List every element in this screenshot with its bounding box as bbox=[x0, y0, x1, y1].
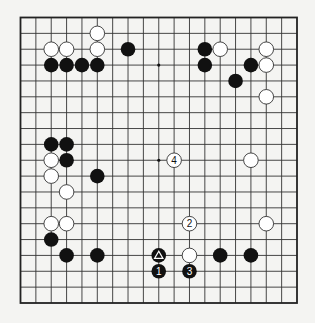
black-stone bbox=[121, 42, 136, 57]
white-stone bbox=[44, 169, 59, 184]
white-stone bbox=[182, 248, 197, 263]
black-stone bbox=[59, 58, 74, 73]
go-board: 1234 bbox=[0, 0, 315, 323]
white-stone bbox=[244, 153, 259, 168]
black-stone bbox=[90, 169, 105, 184]
move-4: 4 bbox=[167, 153, 182, 168]
move-number-label: 3 bbox=[187, 266, 193, 277]
black-stone bbox=[213, 248, 228, 263]
white-stone bbox=[59, 185, 74, 200]
white-stone bbox=[44, 42, 59, 57]
black-stone bbox=[75, 58, 90, 73]
white-stone bbox=[44, 153, 59, 168]
white-stone bbox=[59, 216, 74, 231]
white-stone bbox=[259, 90, 274, 105]
white-stone bbox=[259, 58, 274, 73]
marked-stone-triangle bbox=[151, 248, 166, 263]
white-stone bbox=[90, 26, 105, 41]
move-number-label: 1 bbox=[156, 266, 162, 277]
black-stone bbox=[244, 248, 259, 263]
white-stone bbox=[44, 216, 59, 231]
black-stone bbox=[44, 232, 59, 247]
star-point bbox=[157, 63, 160, 66]
white-stone bbox=[90, 42, 105, 57]
black-stone bbox=[59, 137, 74, 152]
black-stone bbox=[198, 58, 213, 73]
go-board-diagram: 1234 bbox=[0, 0, 315, 323]
black-stone bbox=[198, 42, 213, 57]
move-2: 2 bbox=[182, 216, 197, 231]
white-stone bbox=[213, 42, 228, 57]
move-number-label: 2 bbox=[187, 218, 193, 229]
white-stone bbox=[59, 42, 74, 57]
black-stone bbox=[90, 248, 105, 263]
black-stone bbox=[59, 153, 74, 168]
move-number-label: 4 bbox=[171, 155, 177, 166]
black-stone bbox=[59, 248, 74, 263]
white-stone bbox=[259, 42, 274, 57]
black-stone bbox=[90, 58, 105, 73]
move-1: 1 bbox=[151, 264, 166, 279]
move-3: 3 bbox=[182, 264, 197, 279]
black-stone bbox=[244, 58, 259, 73]
star-point bbox=[157, 159, 160, 162]
white-stone bbox=[259, 216, 274, 231]
black-stone bbox=[44, 58, 59, 73]
black-stone bbox=[44, 137, 59, 152]
black-stone bbox=[228, 74, 243, 89]
